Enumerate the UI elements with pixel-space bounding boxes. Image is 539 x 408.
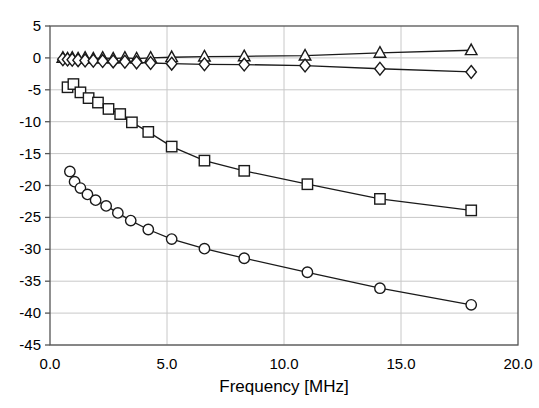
x-tick-label: 20.0 [503,355,532,372]
series-line [68,84,472,210]
data-point-circle [126,215,136,225]
x-axis-title: Frequency [MHz] [219,377,348,396]
data-point-square [127,117,137,127]
data-point-square [93,97,103,107]
data-point-square [166,141,176,151]
data-point-triangle [465,44,477,55]
y-tick-label: -40 [19,304,41,321]
series-circle [65,166,477,310]
y-tick-label: 5 [33,17,41,34]
x-tick-label: 0.0 [40,355,61,372]
series-square [62,79,476,216]
data-point-square [466,205,476,215]
y-tick-label: 0 [33,49,41,66]
data-point-circle [466,300,476,310]
series-triangle [57,44,477,63]
gridlines [50,26,518,345]
data-point-circle [239,253,249,263]
x-tick-label: 5.0 [157,355,178,372]
data-point-square [375,194,385,204]
data-point-circle [90,195,100,205]
y-tick-label: -30 [19,240,41,257]
data-point-square [115,109,125,119]
data-series-layer [57,44,477,310]
y-tick-label: -45 [19,336,41,353]
data-point-square [199,155,209,165]
x-tick-label: 15.0 [386,355,415,372]
x-tick-label: 10.0 [269,355,298,372]
y-tick-label: -25 [19,208,41,225]
chart-container: 50-5-10-15-20-25-30-35-40-45 0.05.010.01… [0,0,539,408]
data-point-circle [101,201,111,211]
data-point-diamond [108,55,118,68]
y-tick-label: -5 [28,81,41,98]
y-tick-label: -35 [19,272,41,289]
y-tick-label: -15 [19,145,41,162]
data-point-circle [199,243,209,253]
data-point-diamond [466,66,476,79]
data-point-square [103,104,113,114]
data-point-circle [113,208,123,218]
data-point-diamond [300,59,310,72]
data-point-square [239,166,249,176]
series-line [70,171,471,304]
data-point-circle [65,166,75,176]
data-point-circle [166,234,176,244]
y-axis-tick-labels: 50-5-10-15-20-25-30-35-40-45 [19,17,41,353]
line-chart: 50-5-10-15-20-25-30-35-40-45 0.05.010.01… [0,0,539,408]
data-point-circle [302,267,312,277]
data-point-square [302,179,312,189]
data-point-triangle [374,47,386,58]
data-point-circle [375,283,385,293]
data-point-circle [143,224,153,234]
data-point-diamond [97,55,107,68]
y-tick-label: -10 [19,113,41,130]
x-axis-tick-labels: 0.05.010.015.020.0 [40,355,533,372]
data-point-square [143,127,153,137]
data-point-diamond [375,62,385,75]
y-tick-label: -20 [19,177,41,194]
